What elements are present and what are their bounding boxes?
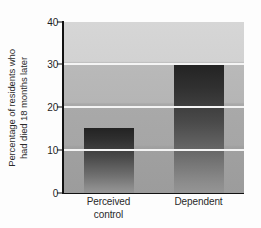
x-axis-label-dependent: Dependent bbox=[154, 196, 244, 209]
gridline bbox=[64, 63, 244, 65]
y-tick-label-40: 40 bbox=[36, 16, 58, 27]
x-label-line: Dependent bbox=[154, 196, 244, 209]
y-tick-label-20: 20 bbox=[36, 102, 58, 113]
x-axis-label-perceived-control: Perceivedcontrol bbox=[64, 196, 154, 221]
y-tick-label-0: 0 bbox=[36, 187, 58, 198]
x-axis-category-labels: PerceivedcontrolDependent bbox=[64, 196, 244, 228]
bar-chart-figure: Percentage of residents who had died 18 … bbox=[0, 0, 261, 228]
y-axis-title: Percentage of residents who had died 18 … bbox=[4, 22, 32, 193]
gridline bbox=[64, 149, 244, 151]
y-axis-title-line-1: Percentage of residents who bbox=[6, 49, 18, 167]
x-label-line: Perceived bbox=[64, 196, 154, 209]
y-tick-label-10: 10 bbox=[36, 144, 58, 155]
x-axis-line bbox=[62, 193, 244, 195]
y-tick-label-30: 30 bbox=[36, 59, 58, 70]
bar-perceived-control bbox=[84, 128, 134, 192]
bar-dependent bbox=[174, 64, 224, 192]
y-axis-title-line-2: had died 18 months later bbox=[18, 49, 30, 167]
y-axis-tick-labels: 010203040 bbox=[34, 0, 58, 228]
gridline bbox=[64, 106, 244, 108]
plot-area bbox=[64, 22, 244, 193]
x-label-line: control bbox=[64, 209, 154, 222]
